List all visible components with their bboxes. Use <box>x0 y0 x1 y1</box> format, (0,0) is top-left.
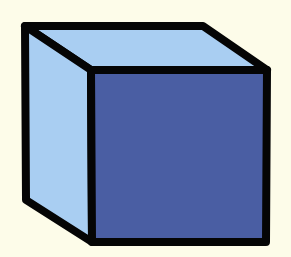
cube-front-face <box>91 70 267 242</box>
cube-illustration <box>0 0 291 257</box>
